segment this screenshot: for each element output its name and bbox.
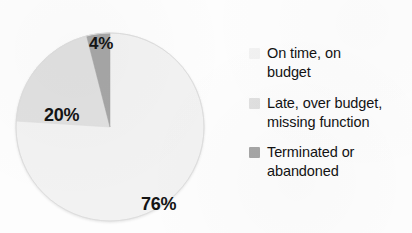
- legend-label-on-time-line2: budget: [267, 64, 311, 80]
- legend-item-late-over-budget[interactable]: Late, over budget, missing function: [249, 94, 409, 133]
- legend-swatch-icon-on-time: [249, 48, 260, 59]
- legend-swatch-icon-late: [249, 98, 260, 109]
- legend-label-terminated: Terminated or abandoned: [267, 143, 354, 182]
- legend-label-on-time: On time, on budget: [267, 44, 341, 83]
- legend-label-terminated-line1: Terminated or: [267, 144, 354, 160]
- legend-item-terminated-or-abandoned[interactable]: Terminated or abandoned: [249, 143, 409, 182]
- legend-label-late-line1: Late, over budget,: [267, 95, 382, 111]
- pie-value-label-terminated: 4%: [89, 34, 113, 54]
- legend-label-late: Late, over budget, missing function: [267, 94, 382, 133]
- legend-label-late-line2: missing function: [267, 114, 369, 130]
- legend-label-on-time-line1: On time, on: [267, 45, 341, 61]
- legend-swatch-icon-terminated: [249, 147, 260, 158]
- legend-label-terminated-line2: abandoned: [267, 163, 339, 179]
- legend-item-on-time-on-budget[interactable]: On time, on budget: [249, 44, 409, 83]
- pie-chart-figure: 4% 20% 76% On time, on budget Late, over…: [0, 0, 412, 233]
- pie-value-label-late: 20%: [44, 105, 79, 126]
- pie-chart-svg: [15, 32, 205, 222]
- pie-value-label-on-time: 76%: [141, 194, 176, 215]
- chart-legend: On time, on budget Late, over budget, mi…: [249, 44, 409, 193]
- pie-chart-plot-area: 4% 20% 76%: [15, 32, 205, 222]
